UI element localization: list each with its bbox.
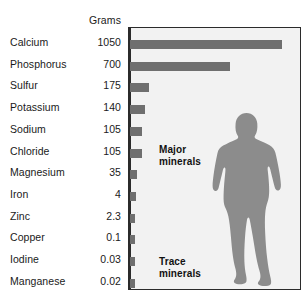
caption-major-minerals: Major minerals <box>159 144 201 167</box>
mineral-name: Phosphorus <box>10 58 67 70</box>
table-row: Copper0.1 <box>0 231 121 245</box>
bar-potassium <box>130 105 145 114</box>
mineral-grams-value: 1050 <box>61 36 121 48</box>
bar-iron <box>130 192 136 201</box>
mineral-grams-value: 0.03 <box>61 253 121 265</box>
bar-chloride <box>130 149 142 158</box>
table-row: Calcium1050 <box>0 36 121 50</box>
mineral-name: Copper <box>10 231 45 243</box>
mineral-grams-value: 4 <box>61 188 121 200</box>
mineral-grams-value: 35 <box>61 166 121 178</box>
mineral-grams-value: 175 <box>61 79 121 91</box>
bar-sodium <box>130 127 142 136</box>
bar-zinc <box>130 214 135 223</box>
mineral-content-figure: Grams Calcium1050Phosphorus700Sulfur175P… <box>0 0 303 301</box>
mineral-grams-value: 700 <box>61 58 121 70</box>
mineral-grams-value: 140 <box>61 101 121 113</box>
mineral-grams-value: 105 <box>61 145 121 157</box>
table-row: Zinc2.3 <box>0 210 121 224</box>
mineral-name: Iodine <box>10 253 39 265</box>
bar-calcium <box>130 40 282 49</box>
mineral-grams-value: 0.02 <box>61 275 121 287</box>
table-row: Potassium140 <box>0 101 121 115</box>
table-row: Phosphorus700 <box>0 58 121 72</box>
mineral-name: Calcium <box>10 36 48 48</box>
bar-phosphorus <box>130 62 230 71</box>
mineral-grams-value: 105 <box>61 123 121 135</box>
table-row: Iron4 <box>0 188 121 202</box>
mineral-name: Sodium <box>10 123 46 135</box>
mineral-name: Magnesium <box>10 166 65 178</box>
bar-copper <box>130 235 135 244</box>
mineral-name: Zinc <box>10 210 30 222</box>
table-row: Magnesium35 <box>0 166 121 180</box>
mineral-table: Grams Calcium1050Phosphorus700Sulfur175P… <box>0 0 128 301</box>
table-row: Sodium105 <box>0 123 121 137</box>
mineral-name: Iron <box>10 188 28 200</box>
mineral-grams-value: 2.3 <box>61 210 121 222</box>
human-body-silhouette-icon <box>200 112 292 289</box>
chart-panel: Major minerals Trace minerals <box>128 27 301 290</box>
table-row: Sulfur175 <box>0 79 121 93</box>
mineral-grams-value: 0.1 <box>61 231 121 243</box>
bar-magnesium <box>130 170 137 179</box>
table-row: Chloride105 <box>0 145 121 159</box>
table-row: Manganese0.02 <box>0 275 121 289</box>
caption-trace-minerals: Trace minerals <box>159 256 201 279</box>
table-row: Iodine0.03 <box>0 253 121 267</box>
bar-iodine <box>130 257 135 266</box>
bar-sulfur <box>130 83 149 92</box>
mineral-name: Manganese <box>10 275 65 287</box>
mineral-name: Potassium <box>10 101 59 113</box>
bar-manganese <box>130 279 135 288</box>
mineral-name: Chloride <box>10 145 50 157</box>
grams-column-header: Grams <box>0 14 121 26</box>
mineral-name: Sulfur <box>10 79 38 91</box>
